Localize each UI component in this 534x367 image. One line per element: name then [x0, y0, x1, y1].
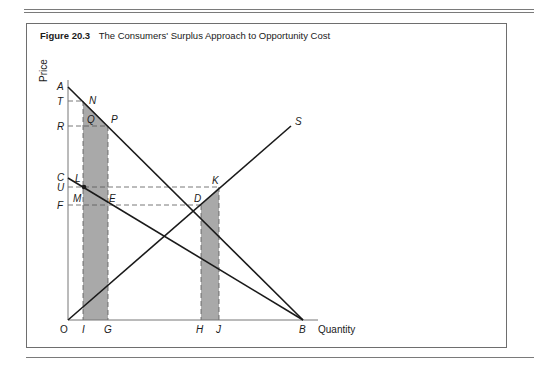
label-H: H	[196, 324, 204, 335]
label-M: M	[73, 193, 82, 204]
label-B: B	[299, 324, 306, 335]
label-N: N	[89, 95, 97, 106]
label-Q: Q	[87, 114, 95, 125]
label-L: L	[75, 173, 81, 184]
label-D: D	[194, 193, 201, 204]
label-J: J	[215, 324, 222, 335]
label-S: S	[295, 116, 302, 127]
origin-label: O	[60, 324, 68, 335]
label-F: F	[57, 200, 64, 211]
label-I: I	[82, 324, 85, 335]
shaded-band-right	[201, 187, 219, 320]
label-P: P	[111, 114, 118, 125]
point-L-dot	[82, 185, 87, 190]
label-K: K	[212, 175, 220, 186]
bottom-rule	[26, 357, 534, 358]
label-G: G	[104, 324, 112, 335]
label-R: R	[57, 121, 64, 132]
shaded-band-left	[83, 101, 108, 320]
y-axis-label: Price	[38, 59, 49, 82]
label-A: A	[56, 81, 64, 92]
x-axis-label: Quantity	[318, 324, 355, 335]
label-U: U	[57, 182, 65, 193]
label-T: T	[57, 96, 64, 107]
label-E: E	[109, 193, 116, 204]
diagram: Price Quantity O A T R C U F I G H J B N…	[0, 0, 534, 367]
